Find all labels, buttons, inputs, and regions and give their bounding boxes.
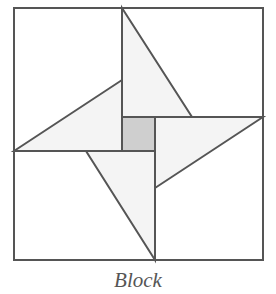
block-caption: Block xyxy=(0,268,276,293)
pinwheel-quilt-block xyxy=(0,0,276,294)
center-square xyxy=(122,117,155,151)
